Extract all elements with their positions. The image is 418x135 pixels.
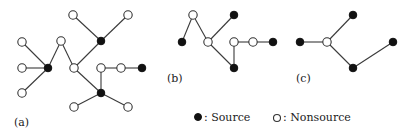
nonsource-legend-label: : Nonsource (283, 111, 351, 124)
source-node-icon (138, 64, 146, 72)
nonsource-node-icon (124, 11, 132, 19)
nonsource-node-icon (204, 38, 212, 46)
edge (208, 42, 234, 68)
nonsource-node-icon (70, 103, 78, 111)
nonsource-node-icon (230, 38, 238, 46)
nodes-layer (18, 11, 397, 111)
panel-label-b: (b) (167, 72, 183, 85)
edge (208, 15, 234, 42)
nonsource-node-icon (249, 38, 257, 46)
source-node-icon (349, 64, 357, 72)
source-legend-label: : Source (204, 111, 250, 124)
nonsource-node-icon (124, 103, 132, 111)
legend: : Source : Nonsource (195, 111, 351, 124)
nonsource-node-icon (97, 64, 105, 72)
source-node-icon (269, 38, 277, 46)
edge (101, 15, 128, 41)
source-legend-icon (195, 114, 202, 121)
nonsource-node-icon (117, 64, 125, 72)
nonsource-node-icon (323, 38, 331, 46)
edge (327, 15, 353, 42)
source-node-icon (97, 37, 105, 45)
source-node-icon (97, 89, 105, 97)
nonsource-node-icon (18, 89, 26, 97)
source-node-icon (230, 11, 238, 19)
nonsource-node-icon (18, 64, 26, 72)
nonsource-legend-icon (274, 115, 281, 122)
tree-diagram: (a)(b)(c) : Source : Nonsource (0, 0, 418, 135)
panel-label-c: (c) (296, 72, 311, 85)
nonsource-node-icon (189, 11, 197, 19)
nonsource-node-icon (18, 38, 26, 46)
source-node-icon (389, 38, 397, 46)
nonsource-node-icon (69, 11, 77, 19)
edge (73, 15, 101, 41)
edge (353, 42, 393, 68)
edge (22, 68, 48, 93)
edge (327, 42, 353, 68)
source-node-icon (44, 64, 52, 72)
edge (74, 68, 101, 93)
nonsource-node-icon (70, 64, 78, 72)
labels-layer: (a)(b)(c) (14, 72, 311, 129)
source-node-icon (349, 11, 357, 19)
edge (74, 41, 101, 68)
edge (22, 42, 48, 68)
edges-layer (22, 15, 393, 107)
nonsource-node-icon (57, 37, 65, 45)
source-node-icon (296, 38, 304, 46)
source-node-icon (178, 38, 186, 46)
panel-label-a: (a) (14, 116, 29, 129)
source-node-icon (230, 64, 238, 72)
